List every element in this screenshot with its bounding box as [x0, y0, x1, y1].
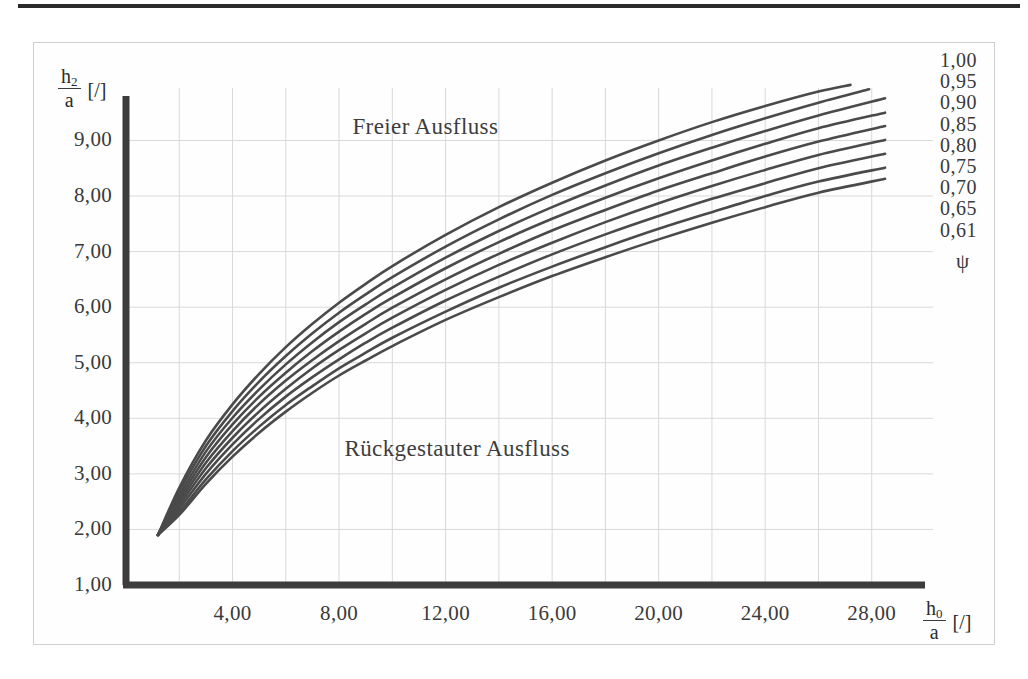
x-tick-label: 24,00 [725, 603, 805, 624]
x-tick-label: 20,00 [619, 603, 699, 624]
y-axis-title: h2 a [/] [58, 66, 106, 111]
x-tick-label: 4,00 [193, 603, 273, 624]
region-label-freier-ausfluss: Freier Ausfluss [352, 115, 498, 138]
legend-value-0-90: 0,90 [940, 92, 977, 112]
y-axis-denominator: a [58, 89, 81, 111]
curve-0-75 [158, 140, 885, 535]
x-tick-label: 16,00 [512, 603, 592, 624]
x-axis-numerator-subscript: 0 [936, 606, 943, 621]
curve-0-65 [158, 168, 885, 535]
curve-1-00 [158, 85, 850, 535]
chart-plot-area [0, 0, 1028, 679]
grid-layer [126, 88, 933, 585]
chart-svg [0, 0, 1028, 679]
y-tick-label: 6,00 [48, 296, 112, 317]
legend-value-0-80: 0,80 [940, 135, 977, 155]
y-tick-label: 3,00 [48, 463, 112, 484]
y-tick-label: 5,00 [48, 352, 112, 373]
x-axis-unit: [/] [946, 611, 972, 634]
y-tick-label: 1,00 [48, 574, 112, 595]
curves-layer [158, 85, 885, 535]
y-tick-label: 8,00 [48, 185, 112, 206]
y-axis-numerator: h2 [58, 66, 81, 89]
y-tick-label: 4,00 [48, 407, 112, 428]
legend-value-0-61: 0,61 [940, 220, 977, 240]
legend-value-0-85: 0,85 [940, 114, 977, 134]
y-axis-numerator-subscript: 2 [71, 74, 78, 89]
legend-value-1-00: 1,00 [940, 50, 977, 70]
x-axis-numerator: h0 [923, 598, 946, 621]
y-axis-fraction: h2 a [58, 66, 81, 111]
axes-layer [123, 96, 925, 585]
x-axis-denominator: a [923, 621, 946, 643]
legend-value-0-95: 0,95 [940, 71, 977, 91]
curve-0-70 [158, 154, 885, 535]
x-axis-fraction: h0 a [923, 598, 946, 643]
x-tick-label: 28,00 [832, 603, 912, 624]
legend-value-0-65: 0,65 [940, 198, 977, 218]
y-tick-label: 2,00 [48, 518, 112, 539]
curve-0-85 [158, 113, 885, 535]
x-tick-label: 12,00 [406, 603, 486, 624]
legend-value-0-70: 0,70 [940, 177, 977, 197]
y-tick-label: 7,00 [48, 241, 112, 262]
legend-value-0-75: 0,75 [940, 156, 977, 176]
region-label-rueckgestauter-ausfluss: Rückgestauter Ausfluss [344, 437, 569, 460]
curve-0-90 [158, 98, 885, 535]
x-tick-label: 8,00 [299, 603, 379, 624]
legend-title-psi: ψ [956, 251, 969, 272]
y-tick-label: 9,00 [48, 129, 112, 150]
x-axis-title: h0 a [/] [923, 598, 971, 643]
y-axis-unit: [/] [81, 79, 107, 102]
